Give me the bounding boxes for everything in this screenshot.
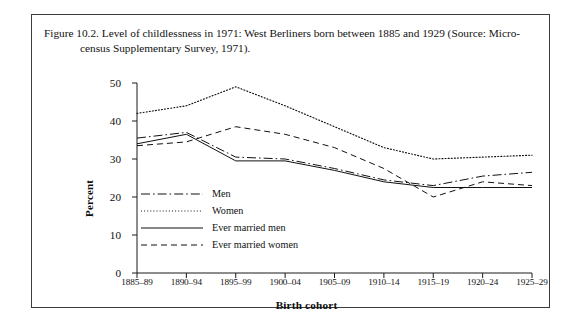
series-line-ever-married-men — [137, 134, 532, 187]
legend-line-swatch-dash-dot-icon — [141, 189, 203, 199]
legend-item-men[interactable]: Men — [141, 185, 298, 202]
series-line-women — [137, 87, 532, 159]
x-tick-label-7: 1920–24 — [455, 277, 511, 287]
series-line-men — [137, 132, 532, 185]
chart-plot-area: Percent 50 40 30 20 10 0 1885–891890–941… — [79, 67, 534, 317]
legend-item-label: Ever married women — [212, 239, 298, 250]
x-tick-label-6: 1915–19 — [405, 277, 461, 287]
caption-line-1: Figure 10.2. Level of childlessness in 1… — [44, 27, 520, 39]
x-tick-label-4: 1905–09 — [307, 277, 363, 287]
chart-legend: MenWomenEver married menEver married wom… — [141, 185, 298, 253]
legend-item-women[interactable]: Women — [141, 202, 298, 219]
x-tick-label-3: 1900–04 — [257, 277, 313, 287]
chart-series-group — [137, 87, 532, 197]
legend-item-ever-married-men[interactable]: Ever married men — [141, 219, 298, 236]
chart-lines — [79, 67, 534, 292]
x-tick-label-0: 1885–89 — [109, 277, 165, 287]
legend-item-label: Women — [212, 205, 243, 216]
x-tick-label-2: 1895–99 — [208, 277, 264, 287]
legend-item-label: Men — [212, 188, 231, 199]
x-tick-label-8: 1925–29 — [504, 277, 560, 287]
figure-frame: Figure 10.2. Level of childlessness in 1… — [31, 14, 550, 308]
caption-line-2: census Supplementary Survey, 1971). — [44, 41, 539, 56]
x-tick-label-1: 1890–94 — [158, 277, 214, 287]
legend-line-swatch-dashed-icon — [141, 240, 203, 250]
x-axis-title: Birth cohort — [79, 299, 534, 311]
legend-item-label: Ever married men — [212, 222, 286, 233]
x-tick-label-5: 1910–14 — [356, 277, 412, 287]
legend-line-swatch-dotted-icon — [141, 206, 203, 216]
figure-caption: Figure 10.2. Level of childlessness in 1… — [44, 26, 539, 55]
legend-item-ever-married-women[interactable]: Ever married women — [141, 236, 298, 253]
legend-line-swatch-solid-icon — [141, 223, 203, 233]
